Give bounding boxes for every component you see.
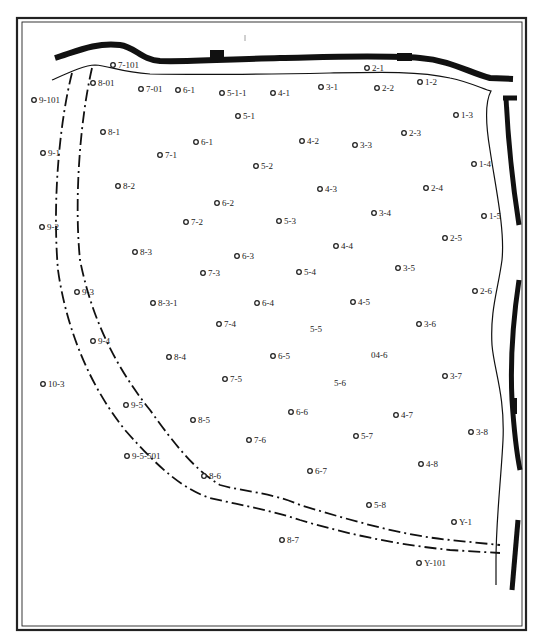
well-marker: 1-2 <box>418 77 437 87</box>
well-dot-icon <box>472 162 477 167</box>
well-dot-icon <box>125 454 130 459</box>
well-label: 4-7 <box>401 410 413 420</box>
well-marker: 3-7 <box>443 371 463 381</box>
well-label: 1-3 <box>461 110 473 120</box>
well-label: 8-1 <box>108 127 120 137</box>
well-label: 9-4 <box>98 336 110 346</box>
well-dot-icon <box>101 130 106 135</box>
well-label: 2-6 <box>480 286 492 296</box>
well-marker: 3-8 <box>469 427 489 437</box>
well-label: 3-1 <box>326 82 338 92</box>
well-marker: 8-5 <box>191 415 211 425</box>
well-dot-icon <box>75 290 80 295</box>
top-road-block-1 <box>210 50 224 58</box>
well-dot-icon <box>176 88 181 93</box>
well-marker: 5-4 <box>297 267 317 277</box>
well-label: 8-3 <box>140 247 152 257</box>
well-label: 7-01 <box>146 84 163 94</box>
well-dot-icon <box>91 81 96 86</box>
well-dot-icon <box>308 469 313 474</box>
well-dot-icon <box>124 403 129 408</box>
well-dot-icon <box>271 91 276 96</box>
well-label: 3-5 <box>403 263 415 273</box>
well-dot-icon <box>418 80 423 85</box>
wells-layer: 7-1018-017-016-15-1-14-13-12-12-21-29-10… <box>32 60 502 568</box>
well-label: 3-7 <box>450 371 462 381</box>
well-dot-icon <box>482 214 487 219</box>
well-marker: 2-3 <box>402 128 422 138</box>
well-marker: 5-2 <box>254 161 273 171</box>
well-label: 7-6 <box>254 435 266 445</box>
well-marker: Y-101 <box>417 558 446 568</box>
well-marker: 3-1 <box>319 82 338 92</box>
well-dot-icon <box>91 339 96 344</box>
well-dot-icon <box>158 153 163 158</box>
well-dot-icon <box>417 561 422 566</box>
well-dot-icon <box>365 66 370 71</box>
well-dot-icon <box>41 151 46 156</box>
well-dot-icon <box>402 131 407 136</box>
well-dot-icon <box>289 410 294 415</box>
well-dot-icon <box>184 220 189 225</box>
well-label: 7-4 <box>224 319 236 329</box>
right-road-lower <box>512 520 518 590</box>
well-label: 7-1 <box>165 150 177 160</box>
well-dot-icon <box>217 322 222 327</box>
well-marker: 2-2 <box>375 83 394 93</box>
well-dot-icon <box>297 270 302 275</box>
well-marker: 5-6 <box>334 378 346 388</box>
well-label: 6-1 <box>183 85 195 95</box>
well-marker: 6-7 <box>308 466 328 476</box>
well-marker: 5-1-1 <box>220 88 247 98</box>
well-dot-icon <box>454 113 459 118</box>
well-label: 1-2 <box>425 77 437 87</box>
well-label: 6-3 <box>242 251 254 261</box>
well-dot-icon <box>372 211 377 216</box>
well-label: 7-101 <box>118 60 139 70</box>
well-dot-icon <box>277 219 282 224</box>
well-label: 9-1 <box>48 148 60 158</box>
well-dot-icon <box>133 250 138 255</box>
well-label: 6-6 <box>296 407 308 417</box>
well-marker: 9-3 <box>75 287 95 297</box>
well-label: 04-6 <box>371 350 388 360</box>
well-dot-icon <box>419 462 424 467</box>
well-marker: 5-8 <box>367 500 387 510</box>
well-label: 9-2 <box>47 222 59 232</box>
well-label: 5-2 <box>261 161 273 171</box>
well-dot-icon <box>417 322 422 327</box>
well-label: 2-2 <box>382 83 394 93</box>
well-label: 9-3 <box>82 287 94 297</box>
well-marker: 4-3 <box>318 184 338 194</box>
well-dot-icon <box>443 374 448 379</box>
well-label: 3-3 <box>360 140 372 150</box>
well-label: 5-1-1 <box>227 88 247 98</box>
well-marker: 3-4 <box>372 208 392 218</box>
well-label: 8-4 <box>174 352 186 362</box>
well-dot-icon <box>40 225 45 230</box>
well-label: 9-5-501 <box>132 451 161 461</box>
well-dot-icon <box>354 434 359 439</box>
well-dot-icon <box>201 271 206 276</box>
well-marker: 4-1 <box>271 88 290 98</box>
well-marker: 9-5 <box>124 400 144 410</box>
well-marker: 3-3 <box>353 140 373 150</box>
well-dot-icon <box>375 86 380 91</box>
well-dot-icon <box>247 438 252 443</box>
well-label: 5-6 <box>334 378 346 388</box>
well-marker: 9-2 <box>40 222 59 232</box>
well-dot-icon <box>271 354 276 359</box>
well-dot-icon <box>351 300 356 305</box>
well-marker: 2-6 <box>473 286 493 296</box>
well-dot-icon <box>255 301 260 306</box>
well-marker: 4-7 <box>394 410 414 420</box>
inner-frame <box>22 22 522 626</box>
well-marker: 6-4 <box>255 298 275 308</box>
well-label: 4-8 <box>426 459 438 469</box>
well-dot-icon <box>167 355 172 360</box>
well-marker: 8-1 <box>101 127 120 137</box>
well-marker: 3-6 <box>417 319 437 329</box>
well-label: 1-5 <box>489 211 501 221</box>
well-dot-icon <box>41 382 46 387</box>
well-marker: 9-1 <box>41 148 60 158</box>
